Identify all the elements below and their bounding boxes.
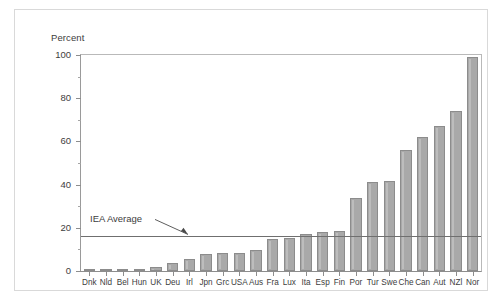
x-axis-tick	[389, 271, 390, 276]
bar	[417, 137, 428, 271]
bar	[284, 238, 295, 271]
bar	[300, 234, 311, 271]
x-axis-tick	[439, 271, 440, 276]
x-axis-tick	[123, 271, 124, 276]
bar	[450, 111, 461, 271]
bar	[250, 250, 261, 271]
y-axis-tick	[76, 271, 81, 272]
figure-frame: Percent 020406080100 DnkNldBelHunUKDeuIr…	[14, 9, 488, 291]
bar	[350, 198, 361, 271]
x-axis-tick	[206, 271, 207, 276]
bar	[467, 57, 478, 271]
y-axis-tick-label: 20	[31, 222, 71, 233]
x-axis-tick-label: Nor	[460, 278, 485, 287]
x-axis-tick	[373, 271, 374, 276]
x-axis-tick	[273, 271, 274, 276]
x-axis-tick	[339, 271, 340, 276]
x-axis-tick	[89, 271, 90, 276]
bar	[367, 182, 378, 271]
bar-series	[81, 55, 481, 271]
bar	[234, 253, 245, 271]
x-axis-tick	[423, 271, 424, 276]
x-axis-tick	[189, 271, 190, 276]
y-axis-tick-label: 0	[31, 265, 71, 276]
plot-area: 020406080100 DnkNldBelHunUKDeuIrlJpnGrcU…	[80, 54, 482, 272]
x-axis-tick	[289, 271, 290, 276]
bar	[434, 126, 445, 271]
y-axis-tick-label: 80	[31, 92, 71, 103]
iea-average-line	[81, 236, 481, 237]
bar	[200, 254, 211, 271]
y-axis-tick-label: 40	[31, 179, 71, 190]
bar	[217, 253, 228, 271]
x-axis-tick	[239, 271, 240, 276]
x-axis-tick	[223, 271, 224, 276]
bar	[384, 181, 395, 271]
y-axis-tick-label: 100	[31, 49, 71, 60]
x-axis-tick	[173, 271, 174, 276]
bar	[184, 259, 195, 271]
bar	[167, 263, 178, 271]
y-axis-title: Percent	[51, 32, 84, 43]
iea-average-label: IEA Average	[90, 213, 142, 224]
x-axis-tick	[106, 271, 107, 276]
x-axis-tick	[306, 271, 307, 276]
bar	[317, 232, 328, 271]
x-axis-tick	[139, 271, 140, 276]
x-axis-tick	[156, 271, 157, 276]
x-axis-tick	[456, 271, 457, 276]
y-axis-tick-label: 60	[31, 135, 71, 146]
x-axis-tick	[473, 271, 474, 276]
x-axis-tick	[406, 271, 407, 276]
x-axis-tick	[356, 271, 357, 276]
x-axis-tick	[323, 271, 324, 276]
bar	[267, 239, 278, 271]
x-axis-tick	[256, 271, 257, 276]
bar	[400, 150, 411, 271]
